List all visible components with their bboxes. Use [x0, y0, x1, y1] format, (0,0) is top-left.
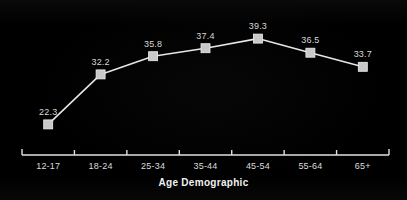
- data-point-marker: [201, 44, 210, 53]
- data-point-marker: [44, 120, 53, 129]
- axis-tick-label: 55-64: [298, 161, 322, 171]
- data-point-label: 32.2: [91, 57, 109, 67]
- line-chart: 22.332.235.837.439.336.533.7 12-1718-242…: [0, 0, 407, 200]
- axis-tick-label: 25-34: [141, 161, 165, 171]
- data-point-label: 36.5: [301, 35, 319, 45]
- x-axis-title: Age Demographic: [0, 177, 407, 188]
- data-point-marker: [306, 48, 315, 57]
- category-axis: [22, 149, 389, 155]
- axis-tick-label: 35-44: [193, 161, 217, 171]
- axis-tick-label: 45-54: [246, 161, 270, 171]
- data-point-label: 39.3: [249, 21, 267, 31]
- data-point-label: 33.7: [354, 49, 372, 59]
- data-point-marker: [253, 34, 262, 43]
- axis-tick-label: 12-17: [36, 161, 60, 171]
- data-point-marker: [96, 70, 105, 79]
- data-point-label: 35.8: [144, 39, 162, 49]
- data-point-label: 37.4: [196, 31, 214, 41]
- data-point-marker: [358, 62, 367, 71]
- axis-tick-label: 65+: [355, 161, 371, 171]
- axis-tick-label: 18-24: [89, 161, 113, 171]
- data-point-label: 22.3: [39, 107, 57, 117]
- data-point-marker: [149, 52, 158, 61]
